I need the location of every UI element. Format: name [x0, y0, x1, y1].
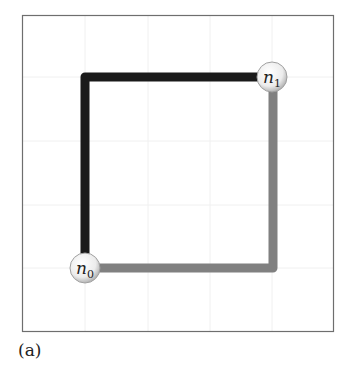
diagram-canvas: n1 n0 [0, 0, 354, 376]
gray-path [85, 77, 273, 268]
node-n1: n1 [257, 62, 287, 92]
diagram-frame [23, 16, 334, 332]
background-grid [23, 16, 333, 331]
black-path [85, 77, 272, 268]
node-n0: n0 [70, 253, 100, 283]
figure-caption: (a) [18, 340, 41, 360]
